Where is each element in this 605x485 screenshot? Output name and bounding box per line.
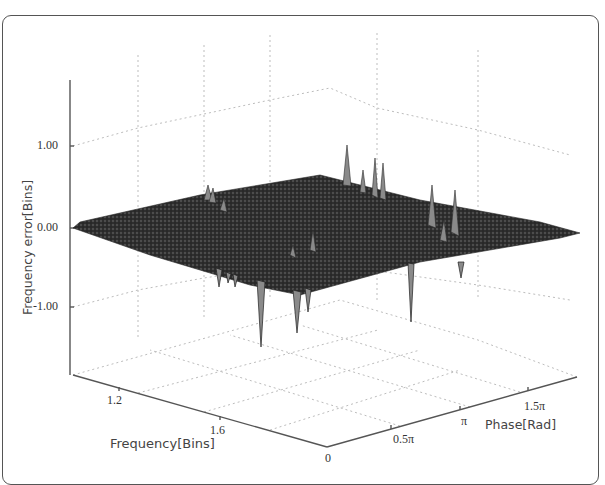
z-tick-0: 0.00 xyxy=(37,220,58,235)
z-axis-label: Frequency error[Bins] xyxy=(20,180,35,315)
y-tick-0: 0 xyxy=(325,451,331,466)
y-tick-pi: π xyxy=(461,414,467,429)
y-tick-0-5pi: 0.5π xyxy=(393,432,414,447)
y-axis-label: Phase[Rad] xyxy=(485,417,556,432)
x-tick-1-2: 1.2 xyxy=(107,393,122,408)
x-axis-label: Frequency[Bins] xyxy=(110,436,215,451)
y-tick-1-5pi: 1.5π xyxy=(524,399,545,414)
z-tick-1: 1.00 xyxy=(37,138,58,153)
z-tick-minus-1: -1.00 xyxy=(33,299,58,314)
surface-mesh xyxy=(73,145,580,347)
